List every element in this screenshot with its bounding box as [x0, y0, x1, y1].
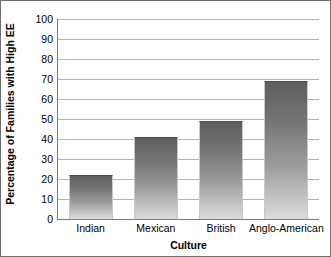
y-tick-label: 70 — [23, 74, 53, 84]
y-tick-label: 90 — [23, 34, 53, 44]
y-tick-label: 100 — [23, 14, 53, 24]
x-axis-title: Culture — [58, 239, 319, 251]
gridline-0 — [58, 219, 319, 220]
bar — [264, 81, 308, 219]
x-tick-label: Anglo-American — [248, 222, 325, 234]
bar — [199, 121, 243, 219]
y-tick-label: 40 — [23, 134, 53, 144]
y-tick-label: 80 — [23, 54, 53, 64]
y-axis-title-text: Percentage of Families with High EE — [4, 23, 16, 204]
bar — [69, 175, 113, 219]
y-tick-label: 60 — [23, 94, 53, 104]
y-axis-tick-labels: 0102030405060708090100 — [19, 19, 53, 219]
bar-chart-figure: Percentage of Families with High EE 0102… — [0, 0, 331, 257]
y-axis-title: Percentage of Families with High EE — [1, 1, 19, 227]
plot-area — [58, 19, 319, 219]
y-tick-label: 20 — [23, 174, 53, 184]
y-tick-label: 50 — [23, 114, 53, 124]
gridline-90 — [58, 39, 319, 40]
gridline-80 — [58, 59, 319, 60]
y-tick-label: 10 — [23, 194, 53, 204]
bar — [134, 137, 178, 219]
gridline-100 — [58, 19, 319, 20]
gridline-70 — [58, 79, 319, 80]
y-tick-label: 30 — [23, 154, 53, 164]
x-axis-tick-labels: IndianMexicanBritishAnglo-American — [58, 222, 319, 238]
y-tick-label: 0 — [23, 214, 53, 224]
